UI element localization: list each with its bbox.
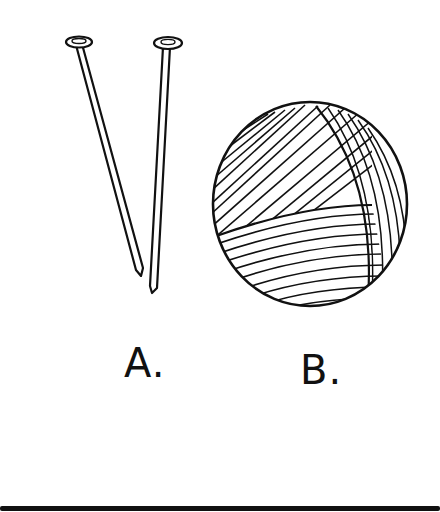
yarn-ball-icon [205, 102, 407, 320]
label-b: B. [300, 347, 342, 393]
bottom-border [0, 506, 440, 511]
knitting-needles-icon [66, 37, 182, 294]
label-a: A. [124, 340, 165, 386]
illustration [0, 0, 440, 512]
